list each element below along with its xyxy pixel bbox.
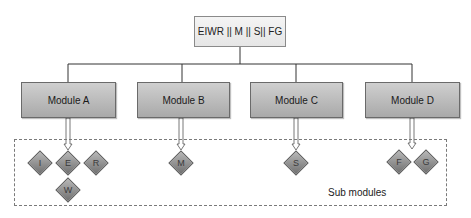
submodule-r-label: R	[93, 158, 100, 168]
submodule-s: S	[283, 150, 309, 176]
submodule-e-label: E	[65, 158, 71, 168]
submodule-i: I	[27, 150, 53, 176]
module-b-node: Module B	[137, 82, 230, 118]
module-hierarchy-diagram: EIWR || M || S|| FG Module A Module B Mo…	[0, 0, 471, 218]
submodule-m-label: M	[177, 158, 185, 168]
module-a-label: Module A	[48, 95, 90, 106]
submodule-f-label: F	[396, 157, 402, 167]
module-a-node: Module A	[21, 82, 116, 118]
submodule-g: G	[413, 149, 439, 175]
module-c-label: Module C	[275, 95, 318, 106]
submodule-e: E	[55, 150, 81, 176]
submodule-w: W	[55, 177, 81, 203]
module-b-label: Module B	[162, 95, 204, 106]
submodule-r: R	[83, 150, 109, 176]
submodule-s-label: S	[293, 158, 299, 168]
module-d-label: Module D	[391, 95, 434, 106]
root-node-label: EIWR || M || S|| FG	[198, 26, 282, 37]
submodule-w-label: W	[64, 185, 73, 195]
submodule-g-label: G	[422, 157, 429, 167]
submodules-region-label: Sub modules	[328, 187, 386, 198]
submodule-f: F	[386, 149, 412, 175]
submodule-m: M	[168, 150, 194, 176]
module-c-node: Module C	[250, 82, 343, 118]
module-d-node: Module D	[365, 82, 460, 118]
submodule-i-label: I	[39, 158, 42, 168]
root-node: EIWR || M || S|| FG	[194, 16, 286, 47]
